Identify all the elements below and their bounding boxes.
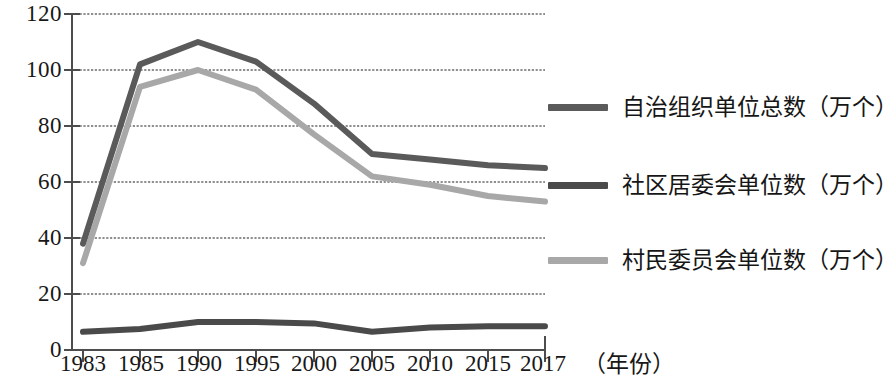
legend-label-1: 社区居委会单位数（万个） [622,170,887,200]
legend-item-total-autonomous-units[interactable]: 自治组织单位总数（万个） [548,92,887,122]
legend-swatch-line-icon-1 [548,182,608,189]
y-tick-label-100: 100 [10,58,62,81]
legend-label-2: 村民委员会单位数（万个） [622,245,887,275]
y-tick-label-120: 120 [10,2,62,25]
series-group [83,42,545,332]
y-tick-label-80: 80 [10,114,62,137]
legend-swatch-line-icon-2 [548,257,608,264]
y-tick-label-60: 60 [10,170,62,193]
series-line-total-autonomous-units [83,42,545,244]
legend-swatch-line-icon-0 [548,104,608,111]
legend-label-0: 自治组织单位总数（万个） [622,92,887,122]
legend-item-villagers-committees[interactable]: 村民委员会单位数（万个） [548,245,887,275]
y-tick-label-0: 0 [10,338,62,361]
y-tick-label-20: 20 [10,282,62,305]
x-axis-ticks [83,350,545,362]
y-axis-labels: 120 100 80 60 40 20 0 [0,0,62,381]
legend-item-community-residents-committees[interactable]: 社区居委会单位数（万个） [548,170,887,200]
y-tick-label-40: 40 [10,226,62,249]
chart-legend: 自治组织单位总数（万个） 社区居委会单位数（万个） 村民委员会单位数（万个） [548,0,876,381]
series-line-community-residents-committees [83,322,545,332]
